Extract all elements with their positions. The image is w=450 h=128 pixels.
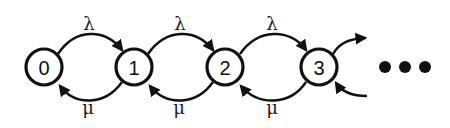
- state-label-1: 1: [128, 57, 139, 79]
- transition-2-to-3: [240, 34, 306, 54]
- state-node-3: 3: [301, 49, 337, 85]
- state-label-0: 0: [38, 57, 49, 79]
- state-label-3: 3: [313, 57, 324, 79]
- rate-label-mu-3-2: μ: [266, 97, 278, 118]
- state-label-2: 2: [219, 57, 230, 79]
- continuation-ellipsis-icon: [379, 61, 431, 73]
- rate-label-mu-2-1: μ: [173, 97, 185, 118]
- state-node-2: 2: [207, 49, 243, 85]
- state-node-0: 0: [26, 49, 62, 85]
- transition-incoming-to-3: [336, 83, 367, 96]
- state-node-1: 1: [116, 49, 152, 85]
- transition-1-to-2: [148, 34, 213, 54]
- transition-0-to-1: [58, 34, 122, 54]
- rate-label-lambda-0-1: λ: [83, 13, 94, 34]
- markov-chain-diagram: λ λ λ μ μ μ 0 1 2 3: [0, 0, 450, 128]
- rate-label-mu-1-0: μ: [82, 97, 94, 118]
- rate-label-lambda-1-2: λ: [174, 13, 185, 34]
- transition-3-outgoing: [333, 38, 365, 54]
- rate-label-lambda-2-3: λ: [266, 13, 277, 34]
